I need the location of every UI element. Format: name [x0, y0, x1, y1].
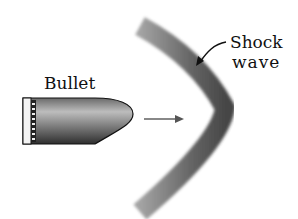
diagram-canvas: Bullet Shock wave: [0, 0, 298, 219]
bullet-label: Bullet: [44, 74, 95, 92]
shock-wave-label-line2: wave: [232, 53, 280, 71]
bullet-shape: [23, 98, 133, 144]
shock-wave-pointer: [200, 42, 226, 62]
shock-wave-label-line1: Shock: [230, 33, 283, 51]
motion-arrow-icon: [144, 115, 184, 123]
